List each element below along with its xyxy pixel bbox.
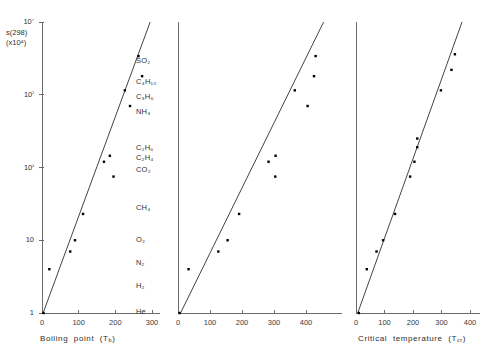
data-point — [267, 161, 269, 163]
regression-line — [43, 22, 150, 313]
regression-line — [358, 22, 462, 313]
panel-critical-temperature: 0100200300400 Critical temperature (Tcr) — [172, 0, 344, 353]
species-label: H₂ — [136, 281, 145, 290]
data-point — [394, 213, 396, 215]
regression-line — [181, 22, 324, 313]
data-point — [375, 250, 377, 252]
data-point — [450, 69, 452, 71]
data-point — [112, 175, 114, 177]
species-label: SO₂ — [136, 56, 150, 65]
x-axis-tick-label: 200 — [109, 318, 122, 327]
data-point — [413, 161, 415, 163]
species-label: NH₃ — [136, 107, 151, 116]
species-label: CH₄ — [136, 203, 151, 212]
species-label-column: SO₂C₄H₁₀C₃H₆NH₃C₂H₆C₂H₄CO₂CH₄O₂N₂H₂He — [136, 0, 170, 353]
data-point — [178, 312, 180, 314]
data-point — [42, 312, 44, 314]
data-point — [416, 137, 418, 139]
x-axis-tick-label: 400 — [300, 318, 313, 327]
x-axis-tick-label: 100 — [72, 318, 85, 327]
data-point — [313, 75, 315, 77]
data-point — [440, 89, 442, 91]
data-point — [294, 89, 296, 91]
plot-area-critical-temperature: 0100200300400 — [172, 0, 344, 330]
x-axis-tick-label: 0 — [354, 318, 358, 327]
data-point — [129, 105, 131, 107]
data-point — [109, 155, 111, 157]
data-point — [306, 105, 308, 107]
species-label: C₃H₆ — [136, 92, 154, 101]
x-axis-title-boiling-point: Boiling point (Tb) — [40, 334, 116, 343]
species-label: N₂ — [136, 258, 145, 267]
x-axis-tick-label: 0 — [176, 318, 180, 327]
species-label: C₂H₆ — [136, 143, 154, 152]
x-axis-tick-label: 400 — [464, 318, 477, 327]
data-point — [274, 175, 276, 177]
data-point — [416, 146, 418, 148]
data-point — [274, 155, 276, 157]
data-point — [454, 53, 456, 55]
data-point — [217, 250, 219, 252]
panel-lennard-jones: 0100200300400 Lennard–Jones temperature … — [348, 0, 485, 353]
data-point — [124, 89, 126, 91]
species-label: CO₂ — [136, 165, 151, 174]
species-label: O₂ — [136, 235, 145, 244]
data-point — [409, 175, 411, 177]
species-label: He — [136, 307, 146, 316]
species-label: C₂H₄ — [136, 153, 154, 162]
x-axis-tick-label: 100 — [204, 318, 217, 327]
x-axis-tick-label: 0 — [40, 318, 44, 327]
plot-area-lennard-jones: 0100200300400 — [348, 0, 485, 330]
x-axis-tick-label: 200 — [407, 318, 420, 327]
data-point — [358, 312, 360, 314]
data-point — [82, 213, 84, 215]
x-axis-tick-label: 100 — [378, 318, 391, 327]
data-point — [103, 161, 105, 163]
data-point — [238, 213, 240, 215]
data-point — [69, 250, 71, 252]
x-axis-tick-label: 200 — [236, 318, 249, 327]
data-point — [366, 268, 368, 270]
data-point — [314, 55, 316, 57]
data-point — [382, 239, 384, 241]
data-point — [48, 268, 50, 270]
x-axis-tick-label: 300 — [435, 318, 448, 327]
x-axis-tick-label: 300 — [268, 318, 281, 327]
data-point — [187, 268, 189, 270]
data-point — [226, 239, 228, 241]
species-label: C₄H₁₀ — [136, 77, 157, 86]
figure-root: s(298) (x10⁴) 11010²10³10⁴ 0100200300 Bo… — [0, 0, 485, 353]
data-point — [74, 239, 76, 241]
